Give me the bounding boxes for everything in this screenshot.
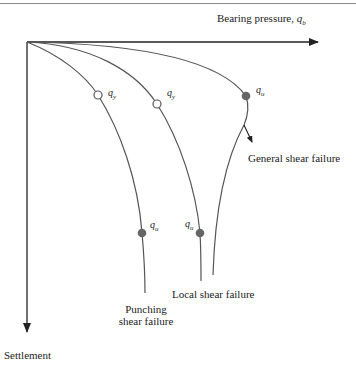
punching-label-line2: shear failure	[114, 315, 178, 327]
local-qu-label: qu	[185, 218, 194, 232]
y-axis-label: Settlement	[4, 349, 51, 361]
local-qu-marker	[196, 229, 205, 238]
bearing-capacity-diagram: Bearing pressure, qb Settlement qy qy qu…	[0, 0, 356, 370]
general-failure-arrow	[244, 125, 252, 142]
punching-qu-marker	[138, 229, 147, 238]
punching-shear-failure-label: Punching shear failure	[114, 303, 178, 327]
x-axis-subscript: b	[302, 19, 306, 27]
punching-shear-curve	[27, 42, 145, 293]
punching-qy-marker	[94, 91, 102, 99]
general-shear-curve	[27, 42, 248, 275]
punching-qu-label: qu	[150, 219, 159, 233]
local-qy-label: qy	[167, 87, 175, 101]
x-axis-label: Bearing pressure, qb	[217, 12, 306, 27]
local-qy-marker	[153, 100, 161, 108]
local-shear-curve	[27, 42, 201, 281]
general-qu-label: qu	[256, 84, 265, 98]
punching-qy-label: qy	[108, 87, 116, 101]
punching-label-line1: Punching	[114, 303, 178, 315]
general-shear-failure-label: General shear failure	[248, 152, 340, 164]
x-axis-label-text: Bearing pressure,	[217, 12, 297, 24]
diagram-canvas	[0, 0, 356, 370]
local-shear-failure-label: Local shear failure	[172, 288, 254, 300]
general-qu-marker	[242, 92, 251, 101]
